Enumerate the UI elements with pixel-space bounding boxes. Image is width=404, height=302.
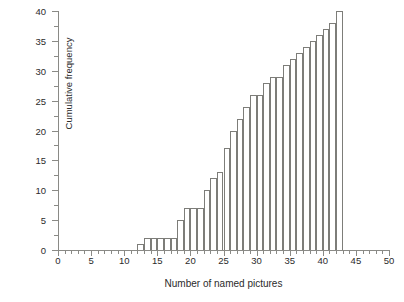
x-tick-mark bbox=[65, 250, 66, 254]
y-tick-label: 15 bbox=[16, 156, 46, 166]
x-tick-mark bbox=[177, 250, 178, 254]
x-tick-mark bbox=[250, 250, 251, 254]
x-tick-mark bbox=[131, 250, 132, 254]
x-tick-label: 40 bbox=[308, 256, 338, 266]
y-tick-label: 40 bbox=[16, 7, 46, 17]
bar bbox=[230, 131, 237, 251]
bar bbox=[263, 83, 270, 250]
x-tick-mark bbox=[151, 250, 152, 254]
x-tick-label: 20 bbox=[175, 256, 205, 266]
x-tick-mark bbox=[204, 250, 205, 254]
bar bbox=[329, 23, 336, 250]
y-tick-label: 25 bbox=[16, 97, 46, 107]
y-tick: 15 bbox=[0, 160, 58, 161]
y-tick: 5 bbox=[0, 220, 58, 221]
x-tick-mark bbox=[230, 250, 231, 254]
y-tick bbox=[0, 26, 58, 27]
x-tick-mark bbox=[329, 250, 330, 254]
bar bbox=[171, 238, 178, 250]
x-tick-mark bbox=[276, 250, 277, 254]
x-tick-mark bbox=[316, 250, 317, 254]
x-tick-mark bbox=[144, 250, 145, 254]
y-tick bbox=[0, 145, 58, 146]
x-tick-mark bbox=[98, 250, 99, 254]
y-tick: 30 bbox=[0, 71, 58, 72]
x-tick-label: 0 bbox=[43, 256, 73, 266]
bar bbox=[184, 208, 191, 250]
x-tick-label: 15 bbox=[142, 256, 172, 266]
y-tick bbox=[0, 56, 58, 57]
bar bbox=[137, 244, 144, 250]
bar bbox=[303, 47, 310, 250]
x-tick-mark bbox=[369, 250, 370, 254]
y-tick-label: 20 bbox=[16, 127, 46, 137]
bar bbox=[197, 208, 204, 250]
y-tick bbox=[0, 205, 58, 206]
bar bbox=[210, 178, 217, 250]
x-tick-mark bbox=[118, 250, 119, 254]
bar bbox=[323, 29, 330, 250]
y-tick-label: 35 bbox=[16, 37, 46, 47]
x-tick-mark bbox=[111, 250, 112, 254]
y-tick bbox=[0, 86, 58, 87]
bar bbox=[316, 35, 323, 250]
bar bbox=[144, 238, 151, 250]
x-tick-mark bbox=[376, 250, 377, 254]
x-tick-mark bbox=[171, 250, 172, 254]
y-tick: 0 bbox=[0, 250, 58, 251]
x-tick-mark bbox=[336, 250, 337, 254]
x-tick-mark bbox=[184, 250, 185, 254]
y-tick-label: 0 bbox=[16, 246, 46, 256]
bar bbox=[164, 238, 171, 250]
bar bbox=[204, 190, 211, 250]
x-tick-mark bbox=[197, 250, 198, 254]
x-tick-mark bbox=[243, 250, 244, 254]
x-tick-mark bbox=[164, 250, 165, 254]
x-tick-label: 30 bbox=[242, 256, 272, 266]
y-axis-title: Cumulative frequency bbox=[63, 4, 74, 164]
y-tick bbox=[0, 235, 58, 236]
x-tick-label: 35 bbox=[275, 256, 305, 266]
bar bbox=[190, 208, 197, 250]
y-tick-label: 10 bbox=[16, 186, 46, 196]
plot-area bbox=[58, 11, 389, 250]
x-tick-mark bbox=[78, 250, 79, 254]
bar bbox=[290, 59, 297, 250]
bar bbox=[177, 220, 184, 250]
bar bbox=[310, 41, 317, 250]
y-tick: 35 bbox=[0, 41, 58, 42]
bar bbox=[336, 11, 343, 250]
x-tick-label: 50 bbox=[374, 256, 404, 266]
y-tick bbox=[0, 116, 58, 117]
bar bbox=[151, 238, 158, 250]
x-tick-mark bbox=[310, 250, 311, 254]
cumulative-frequency-chart: 0510152025303540 05101520253035404550 Cu… bbox=[0, 0, 404, 302]
y-tick-label: 5 bbox=[16, 216, 46, 226]
bar bbox=[224, 148, 231, 250]
x-tick-mark bbox=[137, 250, 138, 254]
x-tick-label: 45 bbox=[341, 256, 371, 266]
x-tick-mark bbox=[283, 250, 284, 254]
x-tick-mark bbox=[363, 250, 364, 254]
bar bbox=[283, 65, 290, 250]
x-tick-label: 10 bbox=[109, 256, 139, 266]
bar bbox=[296, 53, 303, 250]
x-tick-mark bbox=[84, 250, 85, 254]
bar bbox=[270, 77, 277, 250]
x-tick-mark bbox=[303, 250, 304, 254]
bar bbox=[157, 238, 164, 250]
y-tick-label: 30 bbox=[16, 67, 46, 77]
x-tick-mark bbox=[104, 250, 105, 254]
x-tick-mark bbox=[217, 250, 218, 254]
x-axis-title: Number of named pictures bbox=[58, 278, 389, 289]
bar bbox=[237, 119, 244, 250]
y-tick: 10 bbox=[0, 190, 58, 191]
bar bbox=[276, 77, 283, 250]
y-tick: 20 bbox=[0, 131, 58, 132]
bar bbox=[243, 107, 250, 250]
x-tick-mark bbox=[71, 250, 72, 254]
y-tick: 40 bbox=[0, 11, 58, 12]
x-tick-mark bbox=[296, 250, 297, 254]
y-tick: 25 bbox=[0, 101, 58, 102]
bar bbox=[250, 95, 257, 250]
